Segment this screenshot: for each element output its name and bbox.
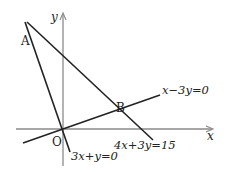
x-axis-label: x	[207, 129, 214, 143]
x-axis	[16, 126, 213, 132]
origin-label: O	[52, 135, 62, 149]
coordinate-diagram: y x O A B x−3y=0 4x+3y=15 3x+y=0	[0, 0, 227, 173]
equation-label-x-minus-3y: x−3y=0	[162, 83, 209, 97]
point-a-label: A	[20, 34, 30, 48]
point-b-label: B	[116, 101, 125, 115]
line-x-minus-3y-eq-0	[23, 95, 160, 143]
equation-label-3x-plus-y: 3x+y=0	[71, 149, 118, 163]
equation-label-4x-plus-3y: 4x+3y=15	[113, 138, 176, 152]
y-axis-label: y	[50, 10, 58, 24]
